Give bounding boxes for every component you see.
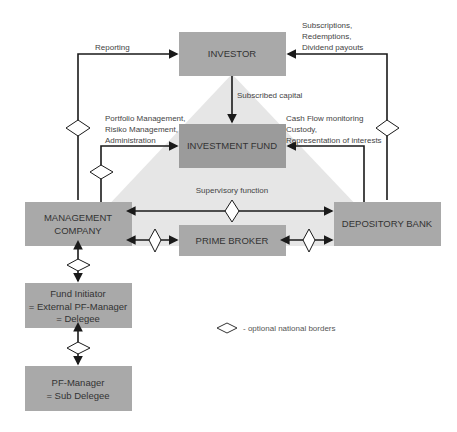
node-pf-manager: PF-Manager = Sub Delegee xyxy=(25,366,132,411)
label-reporting: Reporting xyxy=(95,43,130,52)
node-investor: INVESTOR xyxy=(179,32,286,76)
node-fund-initiator-label-3: = Delegee xyxy=(56,313,100,324)
border-diamond-icon xyxy=(90,165,113,179)
border-diamond-icon xyxy=(67,259,90,271)
label-subscribed-capital: Subscribed capital xyxy=(237,91,303,100)
label-cash-flow-2: Custody, xyxy=(286,125,317,134)
label-subscriptions-2: Redemptions, xyxy=(302,32,351,41)
label-subscriptions-3: Dividend payouts xyxy=(302,43,363,52)
node-depository-bank: DEPOSITORY BANK xyxy=(334,202,441,246)
label-cash-flow-3: Representation of interests xyxy=(286,136,382,145)
label-portfolio-mgmt-1: Portfolio Management, xyxy=(105,114,186,123)
node-investment-fund-label: INVESTMENT FUND xyxy=(187,140,277,151)
node-management-company-label-2: COMPANY xyxy=(54,225,102,236)
label-subscriptions-1: Subscriptions, xyxy=(302,21,352,30)
border-diamond-icon xyxy=(376,120,399,136)
node-prime-broker-label: PRIME BROKER xyxy=(196,235,269,246)
fund-structure-diagram: INVESTOR INVESTMENT FUND MANAGEMENT COMP… xyxy=(0,0,457,432)
legend-diamond-icon xyxy=(217,323,237,333)
node-management-company: MANAGEMENT COMPANY xyxy=(25,202,132,246)
border-diamond-icon xyxy=(67,342,90,354)
node-management-company-label-1: MANAGEMENT xyxy=(44,212,112,223)
node-investment-fund: INVESTMENT FUND xyxy=(179,124,286,168)
border-diamond-icon xyxy=(66,120,90,136)
node-depository-bank-label: DEPOSITORY BANK xyxy=(342,218,433,229)
node-investor-label: INVESTOR xyxy=(208,48,257,59)
node-pf-manager-label-1: PF-Manager xyxy=(52,377,105,388)
node-fund-initiator-label-1: Fund Initiator xyxy=(50,288,105,299)
legend: - optional national borders xyxy=(217,323,336,333)
label-portfolio-mgmt-2: Risiko Management, xyxy=(105,125,178,134)
label-cash-flow-1: Cash Flow monitoring xyxy=(286,114,363,123)
node-pf-manager-label-2: = Sub Delegee xyxy=(46,390,109,401)
label-supervisory: Supervisory function xyxy=(196,186,268,195)
legend-label: - optional national borders xyxy=(243,324,336,333)
label-portfolio-mgmt-3: Administration xyxy=(105,136,156,145)
node-fund-initiator: Fund Initiator = External PF-Manager = D… xyxy=(25,283,132,328)
node-fund-initiator-label-2: = External PF-Manager xyxy=(29,301,127,312)
node-prime-broker: PRIME BROKER xyxy=(179,225,286,256)
